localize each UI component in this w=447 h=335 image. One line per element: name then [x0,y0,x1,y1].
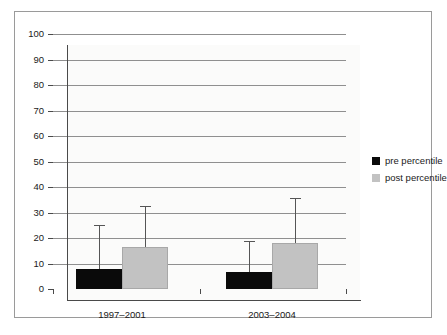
gridline [53,111,346,112]
y-axis-tick-label: 10 [14,259,44,269]
x-axis-line [67,300,361,301]
legend-item-pre: pre percentile [372,153,446,168]
x-axis-tick-label: 1997–2001 [77,309,167,321]
y-axis-line [67,45,68,301]
y-axis-tick-label: 80 [14,80,44,90]
y-axis-tick-label: 100 [14,29,44,39]
error-bar-cap-pre-group-1 [94,225,105,226]
legend-swatch-pre-icon [372,157,380,165]
y-axis-tick-label: 50 [14,157,44,167]
bar-post-group-1 [122,247,168,289]
gridline [53,136,346,137]
y-axis-tick [48,136,53,137]
y-axis-tick [48,85,53,86]
x-axis-tick [200,289,201,294]
error-bar-stem-post-group-2 [295,198,296,243]
y-axis-tick-label: 90 [14,55,44,65]
y-axis-tick-label: 30 [14,208,44,218]
y-axis-tick-label: 20 [14,233,44,243]
x-axis-tick-label: 2003–2004 [227,309,317,321]
gridline [53,34,346,35]
bar-pre-group-2 [226,272,272,289]
gridline [53,238,346,239]
gridline [53,187,346,188]
error-bar-stem-pre-group-2 [249,241,250,273]
y-axis-tick-label: 60 [14,131,44,141]
x-axis-tick [53,289,54,294]
bar-post-group-2 [272,243,318,289]
chart-legend: pre percentile post percentile [372,153,446,187]
error-bar-cap-post-group-2 [290,198,301,199]
legend-label-post: post percentile [385,172,447,183]
gridline [53,162,346,163]
y-axis-tick-label: 0 [14,284,44,294]
y-axis-tick [48,34,53,35]
chart-figure: 0102030405060708090100 1997–20012003–200… [0,0,447,335]
bar-pre-group-1 [76,269,122,289]
y-axis-tick [48,111,53,112]
error-bar-cap-pre-group-2 [244,241,255,242]
gridline [53,85,346,86]
gridline [53,213,346,214]
x-axis-tick [346,289,347,294]
y-axis-tick-label: 70 [14,106,44,116]
y-axis-tick [48,264,53,265]
y-axis-tick [48,238,53,239]
legend-label-pre: pre percentile [385,155,443,166]
legend-swatch-post-icon [372,174,380,182]
gridline [53,60,346,61]
legend-item-post: post percentile [372,170,446,185]
y-axis-tick [48,60,53,61]
y-axis-tick-label: 40 [14,182,44,192]
y-axis-tick [48,213,53,214]
error-bar-cap-post-group-1 [140,206,151,207]
y-axis-tick [48,187,53,188]
error-bar-stem-post-group-1 [145,206,146,247]
error-bar-stem-pre-group-1 [99,225,100,268]
chart-frame: 0102030405060708090100 1997–20012003–200… [14,11,432,318]
y-axis-tick [48,162,53,163]
